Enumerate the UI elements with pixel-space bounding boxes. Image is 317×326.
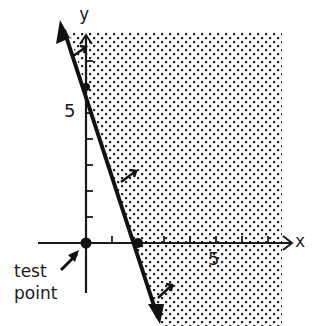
test-point-label-line1: test (14, 260, 57, 282)
shaded-region (60, 33, 282, 326)
test-point-arrow (61, 250, 79, 270)
x-tick-label-5: 5 (208, 248, 219, 269)
test-point-label-line2: point (14, 282, 57, 304)
test-point-marker (81, 238, 92, 249)
x-intercept-marker (133, 238, 143, 248)
y-axis-label: y (79, 4, 89, 24)
y-tick-label-5: 5 (64, 100, 75, 121)
x-axis-label: x (295, 231, 305, 251)
test-point-label: test point (14, 260, 57, 304)
y-intercept-marker (82, 83, 90, 91)
